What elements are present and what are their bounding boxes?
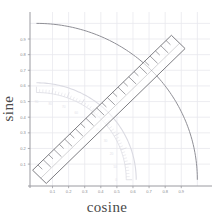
- plot-area: 0102030405060708090 0.10.20.30.40.50.60.…: [0, 0, 214, 222]
- svg-text:0.3: 0.3: [20, 130, 26, 135]
- svg-text:0: 0: [115, 178, 117, 182]
- svg-text:0.5: 0.5: [20, 99, 26, 104]
- svg-text:0.4: 0.4: [98, 189, 104, 194]
- svg-text:0.9: 0.9: [178, 189, 184, 194]
- figure-canvas: 0102030405060708090 0.10.20.30.40.50.60.…: [0, 0, 214, 222]
- svg-text:0.8: 0.8: [20, 52, 26, 57]
- svg-text:0.2: 0.2: [66, 189, 72, 194]
- svg-text:0.6: 0.6: [20, 83, 26, 88]
- y-axis-title: sine: [0, 79, 17, 139]
- svg-text:0.8: 0.8: [162, 189, 168, 194]
- svg-text:60: 60: [75, 111, 79, 115]
- svg-text:80: 80: [49, 102, 53, 106]
- svg-text:0.7: 0.7: [20, 68, 26, 73]
- svg-text:0.1: 0.1: [20, 162, 26, 167]
- svg-text:90: 90: [35, 100, 39, 104]
- svg-text:0.3: 0.3: [82, 189, 88, 194]
- svg-text:10: 10: [113, 165, 117, 169]
- svg-text:20: 20: [110, 152, 114, 156]
- svg-text:0.5: 0.5: [114, 189, 120, 194]
- svg-text:0.2: 0.2: [20, 146, 26, 151]
- x-axis-title: cosine: [0, 199, 214, 216]
- svg-text:0.1: 0.1: [50, 189, 56, 194]
- svg-text:0.6: 0.6: [130, 189, 136, 194]
- svg-text:0.4: 0.4: [20, 115, 26, 120]
- svg-text:70: 70: [62, 105, 66, 109]
- svg-text:0.9: 0.9: [20, 37, 26, 42]
- svg-text:30: 30: [104, 139, 108, 143]
- svg-text:0.7: 0.7: [146, 189, 152, 194]
